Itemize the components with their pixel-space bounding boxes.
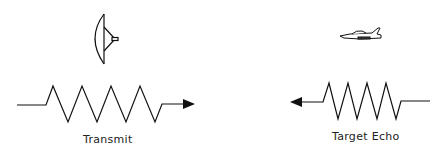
transmit-wave <box>17 86 183 122</box>
radar-dish-icon <box>95 14 118 64</box>
target-echo-label: Target Echo <box>332 130 400 143</box>
transmit-arrow-icon <box>183 99 195 109</box>
transmit-label: Transmit <box>83 133 133 146</box>
jet-aircraft-icon <box>340 28 381 39</box>
echo-arrow-icon <box>290 97 302 107</box>
echo-wave <box>302 83 430 119</box>
